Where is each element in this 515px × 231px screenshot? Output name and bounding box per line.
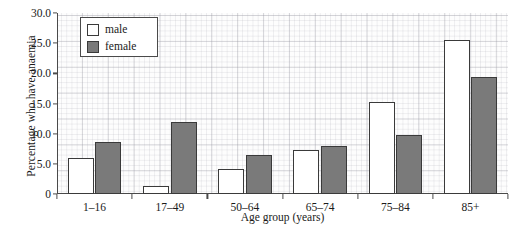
y-tick-mark xyxy=(53,103,58,104)
x-tick-mark xyxy=(357,194,358,199)
bar-male-75-84 xyxy=(369,102,395,194)
x-tick-mark xyxy=(56,194,57,199)
bar-female-85+ xyxy=(471,77,497,194)
bar-male-50-64 xyxy=(218,169,244,194)
legend-label-female: female xyxy=(105,41,136,53)
y-tick-mark xyxy=(53,133,58,134)
legend-swatch-male-icon xyxy=(87,24,99,36)
bar-female-75-84 xyxy=(396,135,422,194)
bar-female-17-49 xyxy=(171,122,197,194)
legend-label-male: male xyxy=(105,24,127,36)
y-tick-mark xyxy=(53,12,58,13)
x-tick-mark xyxy=(507,194,508,199)
x-axis-title: Age group (years) xyxy=(57,211,508,223)
legend-item-male: male xyxy=(87,22,157,38)
x-tick-mark xyxy=(207,194,208,199)
y-tick-label: 0 xyxy=(45,188,51,200)
y-tick-mark xyxy=(53,73,58,74)
legend: male female xyxy=(80,17,158,57)
x-tick-mark xyxy=(132,194,133,199)
y-tick-label: 30.0 xyxy=(31,7,51,19)
legend-swatch-female-icon xyxy=(87,41,99,53)
x-tick-mark xyxy=(282,194,283,199)
bar-female-65-74 xyxy=(321,146,347,194)
y-tick-label: 5.0 xyxy=(37,158,51,170)
bar-male-1-16 xyxy=(68,158,94,194)
bar-male-17-49 xyxy=(143,186,169,194)
bar-female-1-16 xyxy=(95,142,121,194)
y-tick-mark xyxy=(53,163,58,164)
bar-male-65-74 xyxy=(293,150,319,194)
y-tick-label: 25.0 xyxy=(31,37,51,49)
y-tick-mark xyxy=(53,43,58,44)
y-tick-label: 15.0 xyxy=(31,98,51,110)
bar-female-50-64 xyxy=(246,155,272,194)
anaemia-bar-chart: Percentage who have anaemia 05.010.015.0… xyxy=(0,0,515,231)
x-tick-mark xyxy=(432,194,433,199)
y-tick-label: 10.0 xyxy=(31,128,51,140)
y-tick-label: 20.0 xyxy=(31,67,51,79)
bar-male-85+ xyxy=(444,40,470,194)
legend-item-female: female xyxy=(87,39,157,55)
